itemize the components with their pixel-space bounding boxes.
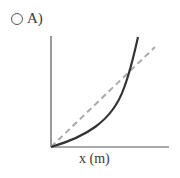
solid-curve <box>51 37 138 147</box>
dashed-line <box>51 47 155 147</box>
x-axis-label: x (m) <box>79 151 110 167</box>
